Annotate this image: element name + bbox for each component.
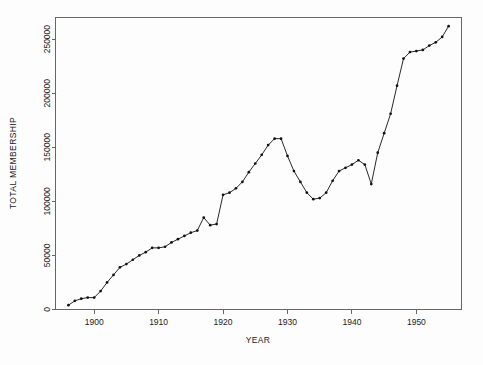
data-point (267, 144, 270, 147)
chart-figure: 050000100000150000200000250000 190019101… (0, 0, 483, 365)
x-tick-label: 1950 (407, 317, 426, 327)
data-point (189, 231, 192, 234)
data-point (370, 183, 373, 186)
data-point (67, 304, 70, 307)
data-point (447, 25, 450, 28)
data-point (441, 36, 444, 39)
data-point (357, 159, 360, 162)
y-tick-label: 0 (42, 307, 52, 312)
data-point (86, 296, 89, 299)
data-point (93, 296, 96, 299)
data-point (280, 137, 283, 140)
plot-frame (56, 18, 462, 310)
data-point (177, 238, 180, 241)
data-point (299, 181, 302, 184)
data-point (247, 171, 250, 174)
x-tick-label: 1910 (149, 317, 168, 327)
data-point (138, 254, 141, 257)
y-tick-label: 100000 (42, 187, 52, 216)
data-point (396, 84, 399, 87)
data-point (222, 194, 225, 197)
data-point (164, 245, 167, 248)
data-point (402, 57, 405, 60)
data-point (338, 170, 341, 173)
data-point (428, 44, 431, 47)
data-point (80, 297, 83, 300)
x-tick-label: 1920 (214, 317, 233, 327)
data-point (376, 151, 379, 154)
y-axis: 050000100000150000200000250000 (42, 25, 56, 312)
data-point (215, 223, 218, 226)
data-point (202, 216, 205, 219)
data-point (196, 229, 199, 232)
data-point (305, 191, 308, 194)
data-point (235, 187, 238, 190)
data-point (331, 179, 334, 182)
data-point (260, 154, 263, 157)
data-point (409, 51, 412, 54)
data-point (119, 266, 122, 269)
series-markers (67, 25, 450, 307)
line-chart-svg: 050000100000150000200000250000 190019101… (0, 0, 483, 365)
data-point (73, 300, 76, 303)
data-point (325, 191, 328, 194)
data-point (209, 224, 212, 227)
x-tick-label: 1930 (278, 317, 297, 327)
x-tick-label: 1940 (342, 317, 361, 327)
data-point (273, 137, 276, 140)
y-tick-label: 200000 (42, 79, 52, 108)
data-point (389, 112, 392, 115)
data-point (344, 166, 347, 169)
data-point (144, 251, 147, 254)
data-point (112, 274, 115, 277)
data-point (351, 163, 354, 166)
data-point (318, 197, 321, 200)
data-point (151, 247, 154, 250)
data-point (254, 162, 257, 165)
y-tick-label: 250000 (42, 25, 52, 54)
data-point (99, 290, 102, 293)
y-tick-label: 150000 (42, 133, 52, 162)
data-point (293, 170, 296, 173)
x-tick-label: 1900 (85, 317, 104, 327)
data-point (131, 258, 134, 261)
y-axis-title: TOTAL MEMBERSHIP (8, 117, 18, 209)
y-tick-label: 50000 (42, 243, 52, 267)
data-point (363, 163, 366, 166)
data-point (383, 132, 386, 135)
data-point (434, 41, 437, 44)
data-point (415, 50, 418, 53)
data-point (125, 263, 128, 266)
data-point (241, 181, 244, 184)
data-point (157, 247, 160, 250)
data-point (170, 241, 173, 244)
data-point (421, 49, 424, 52)
data-point (312, 198, 315, 201)
x-axis: 190019101920193019401950 (85, 310, 426, 327)
data-point (286, 155, 289, 158)
data-point (106, 281, 109, 284)
x-axis-title: YEAR (246, 335, 271, 345)
data-point (228, 191, 231, 194)
data-point (183, 235, 186, 238)
